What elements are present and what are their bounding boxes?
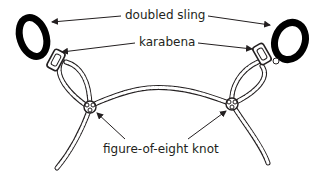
knot-arrow-left — [97, 113, 125, 139]
rope-span — [90, 87, 232, 106]
sling-arrow-right — [208, 16, 270, 25]
label-figure-of-eight-knot: figure-of-eight knot — [103, 143, 219, 155]
knot-arrow-right — [188, 111, 226, 139]
left-figure-of-eight-knot — [84, 101, 96, 113]
left-rope-tail — [57, 108, 90, 168]
right-rope-tail — [232, 104, 268, 163]
label-doubled-sling: doubled sling — [125, 9, 205, 21]
left-doubled-sling — [14, 14, 51, 60]
label-karabena: karabena — [139, 36, 195, 48]
left-rope-loop — [59, 60, 90, 108]
right-figure-of-eight-knot — [226, 98, 238, 110]
karabena-arrow-right — [198, 43, 252, 49]
sling-arrow-left — [52, 16, 121, 22]
karabena-arrow-left — [62, 43, 135, 52]
right-rope-loop — [232, 62, 265, 104]
right-doubled-sling — [269, 18, 310, 64]
